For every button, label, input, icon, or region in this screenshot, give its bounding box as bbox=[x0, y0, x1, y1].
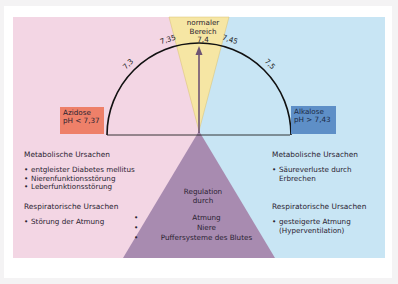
acidosis-metabolic-heading: Metabolische Ursachen bbox=[24, 151, 110, 160]
alkalosis-respiratory-heading: Respiratorische Ursachen bbox=[272, 203, 366, 212]
alkalosis-box: Alkalose pH > 7,43 bbox=[291, 106, 336, 134]
list-item: Störung der Atmung bbox=[24, 218, 104, 227]
list-item-continuation: Erbrechen bbox=[272, 175, 352, 184]
alkalosis-metabolic-list: Säureverluste durch Erbrechen bbox=[272, 166, 352, 183]
alkalosis-respiratory-list: gesteigerte Atmung (Hyperventilation) bbox=[272, 218, 351, 235]
acidosis-respiratory-heading: Respiratorische Ursachen bbox=[24, 203, 118, 212]
normal-range-value: 7,4 bbox=[170, 36, 236, 45]
acidosis-metabolic-list: entgleister Diabetes mellitus Nierenfunk… bbox=[24, 166, 135, 192]
normal-range-label: normaler Bereich 7,4 bbox=[170, 19, 236, 45]
list-item: Atmung bbox=[134, 213, 272, 223]
list-item: Niere bbox=[134, 223, 272, 233]
list-item: Leberfunktionsstörung bbox=[24, 183, 135, 192]
acidosis-box: Azidose pH < 7,37 bbox=[60, 107, 104, 134]
list-item-continuation: (Hyperventilation) bbox=[272, 227, 351, 236]
regulation-title-2: durch bbox=[154, 197, 252, 206]
alkalosis-condition: pH > 7,43 bbox=[294, 116, 333, 124]
alkalosis-metabolic-heading: Metabolische Ursachen bbox=[272, 151, 358, 160]
acidosis-respiratory-list: Störung der Atmung bbox=[24, 218, 104, 227]
acidosis-condition: pH < 7,37 bbox=[63, 117, 101, 125]
regulation-list: Atmung Niere Puffersysteme des Blutes bbox=[134, 213, 272, 244]
list-item: Puffersysteme des Blutes bbox=[134, 233, 272, 243]
regulation-title: Regulation durch bbox=[154, 188, 252, 205]
figure-page: 7,37,357,457,5 normaler Bereich 7,4 Azid… bbox=[4, 6, 392, 278]
